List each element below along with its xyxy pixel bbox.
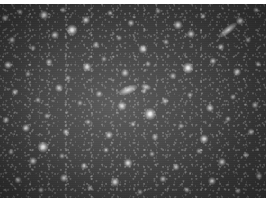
ccd-scanline-texture — [0, 4, 266, 198]
page-margin-right — [266, 0, 276, 198]
star-field-frame — [0, 4, 266, 198]
image-canvas — [0, 0, 276, 198]
